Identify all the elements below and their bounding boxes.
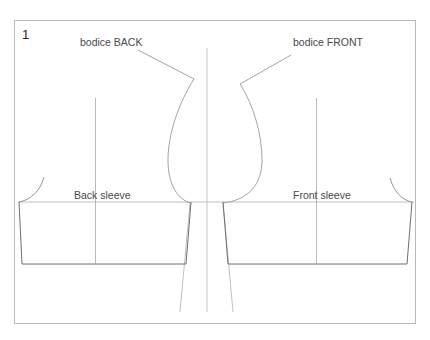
- figure-frame: [15, 21, 416, 324]
- back-side-seam-line: [180, 203, 190, 312]
- bodice-back-armhole: [138, 50, 194, 203]
- bodice-front-armhole: [223, 55, 291, 203]
- back-sleeve-cap-curve: [19, 177, 44, 202]
- label-back-sleeve: Back sleeve: [74, 189, 131, 201]
- sleeve-pattern-diagram: [0, 0, 430, 340]
- back-sleeve-outline: [19, 202, 191, 264]
- label-bodice-back: bodice BACK: [80, 36, 142, 48]
- figure-number: 1: [22, 28, 29, 42]
- front-sleeve-outline: [223, 202, 412, 264]
- front-sleeve-cap-curve: [390, 178, 412, 202]
- label-front-sleeve: Front sleeve: [293, 189, 351, 201]
- label-bodice-front: bodice FRONT: [293, 36, 363, 48]
